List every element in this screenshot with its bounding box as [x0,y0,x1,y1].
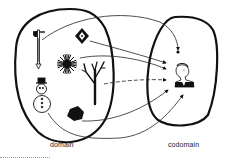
mapping-diagram [0,0,242,160]
codomain-label: codomain [168,141,199,148]
sunburst-icon [57,54,77,74]
domain-set-boundary [15,9,113,142]
snowman-icon [34,78,51,113]
tree-icon [82,62,105,104]
domain-label: domain [50,141,74,148]
dot-point [176,50,179,53]
washington-portrait-icon [175,64,194,88]
hexagon-icon [67,106,84,121]
diamond-sign-icon [75,28,89,44]
bottom-dotted-divider [0,157,50,158]
sword-icon [33,30,45,69]
